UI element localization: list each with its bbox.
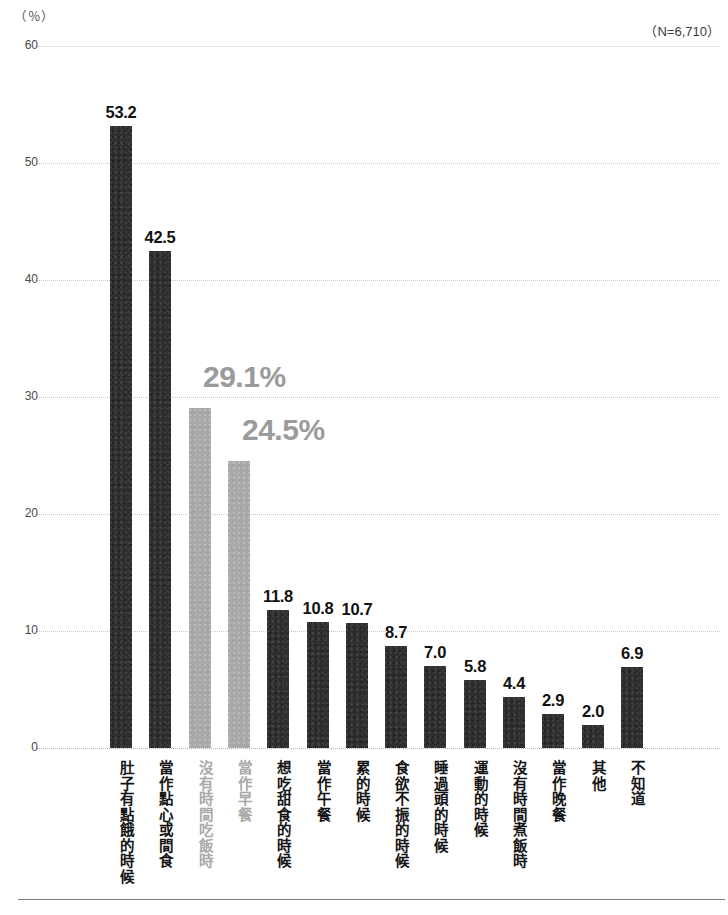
bar[interactable] xyxy=(267,610,289,748)
y-axis-tick-20: 20 xyxy=(14,507,38,519)
bar-value-label: 2.0 xyxy=(582,703,604,720)
bar-value-label: 24.5% xyxy=(242,415,325,445)
x-axis-category-label: 沒有時間煮飯時 xyxy=(503,760,525,869)
y-axis-tick-40: 40 xyxy=(14,273,38,285)
bar-value-label: 10.8 xyxy=(303,600,334,617)
bar-value-label: 7.0 xyxy=(424,644,446,661)
x-axis-category-label: 當作午餐 xyxy=(307,760,329,822)
gridline-20 xyxy=(36,514,720,515)
bar[interactable] xyxy=(307,622,329,748)
bar[interactable] xyxy=(503,697,525,748)
x-axis-category-label: 當作點心或間食 xyxy=(149,760,171,869)
bar-value-label: 2.9 xyxy=(542,692,564,709)
x-axis-category-label: 想吃甜食的時候 xyxy=(267,760,289,869)
bar[interactable] xyxy=(346,623,368,748)
bar-value-label: 8.7 xyxy=(385,624,407,641)
bar[interactable] xyxy=(621,667,643,748)
bar[interactable] xyxy=(582,725,604,748)
bar-value-label: 11.8 xyxy=(263,588,293,605)
gridline-40 xyxy=(36,280,720,281)
bar[interactable] xyxy=(228,461,250,748)
bar-value-label: 42.5 xyxy=(145,229,176,246)
x-axis-category-label: 肚子有點餓的時候 xyxy=(110,760,132,884)
bar-value-label: 6.9 xyxy=(621,645,643,662)
x-axis-category-label: 沒有時間吃飯時 xyxy=(189,760,211,869)
bar[interactable] xyxy=(424,666,446,748)
bar-value-label: 4.4 xyxy=(503,675,525,692)
x-axis-category-label: 當作晚餐 xyxy=(542,760,564,822)
bar-value-label: 10.7 xyxy=(342,601,373,618)
y-axis-tick-60: 60 xyxy=(14,39,38,51)
x-axis-category-label: 當作早餐 xyxy=(228,760,250,822)
gridline-60 xyxy=(36,46,720,47)
gridline-30 xyxy=(36,397,720,398)
y-axis-tick-30: 30 xyxy=(14,390,38,402)
x-axis-category-label: 累的時候 xyxy=(346,760,368,822)
bar[interactable] xyxy=(464,680,486,748)
x-axis-category-label: 食欲不振的時候 xyxy=(385,760,407,869)
x-axis-category-label: 睡過頭的時候 xyxy=(424,760,446,853)
x-axis-category-label: 運動的時候 xyxy=(464,760,486,838)
footer-divider xyxy=(18,899,725,900)
bar-value-label: 5.8 xyxy=(464,658,486,675)
bar[interactable] xyxy=(149,251,171,748)
bar[interactable] xyxy=(189,408,211,748)
x-axis-category-label: 其他 xyxy=(582,760,604,791)
y-axis-tick-0: 0 xyxy=(14,741,38,753)
bar[interactable] xyxy=(542,714,564,748)
gridline-0 xyxy=(36,748,720,749)
bar-value-label: 29.1% xyxy=(203,362,286,392)
bar-chart-plot-area: 010203040506053.242.529.1%24.5%11.810.81… xyxy=(0,0,728,760)
x-axis-category-label: 不知道 xyxy=(621,760,643,807)
y-axis-tick-50: 50 xyxy=(14,156,38,168)
gridline-50 xyxy=(36,163,720,164)
gridline-10 xyxy=(36,631,720,632)
bar-value-label: 53.2 xyxy=(106,104,137,121)
bar[interactable] xyxy=(385,646,407,748)
y-axis-tick-10: 10 xyxy=(14,624,38,636)
bar[interactable] xyxy=(110,126,132,748)
